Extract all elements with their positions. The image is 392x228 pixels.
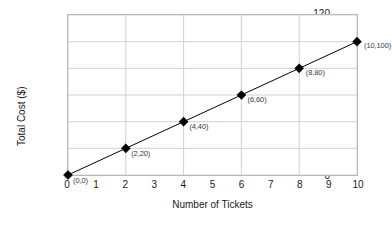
plot-area	[67, 14, 358, 176]
x-axis-tick-label: 9	[317, 179, 341, 190]
point-annotation-label: (4,40)	[189, 123, 208, 131]
x-axis-tick-label: 4	[171, 179, 195, 190]
y-axis-title-text: Total Cost ($)	[16, 87, 27, 146]
data-point-marker	[121, 144, 130, 153]
data-series	[68, 15, 357, 175]
x-axis-tick-label: 6	[230, 179, 254, 190]
series-line	[68, 42, 357, 175]
x-axis-tick-label: 3	[142, 179, 166, 190]
x-axis-tick-label: 10	[346, 179, 370, 190]
point-annotation-label: (10,100)	[364, 42, 391, 50]
x-axis-tick-label: 5	[201, 179, 225, 190]
y-axis-title: Total Cost ($)	[3, 50, 19, 150]
data-point-marker	[237, 90, 246, 99]
x-axis-tick-label: 7	[259, 179, 283, 190]
x-axis-title: Number of Tickets	[67, 199, 358, 211]
x-axis-tick-label: 8	[288, 179, 312, 190]
chart-container: Total Cost ($) 020406080100120 012345678…	[0, 0, 392, 228]
point-annotation-label: (6,60)	[248, 96, 267, 104]
data-point-marker	[295, 64, 304, 73]
x-axis-tick-label: 2	[113, 179, 137, 190]
data-point-marker	[179, 117, 188, 126]
point-annotation-label: (2,20)	[131, 150, 150, 158]
point-annotation-label: (8,80)	[306, 69, 325, 77]
data-point-marker	[352, 37, 361, 46]
point-annotation-label: (0,0)	[73, 177, 88, 185]
